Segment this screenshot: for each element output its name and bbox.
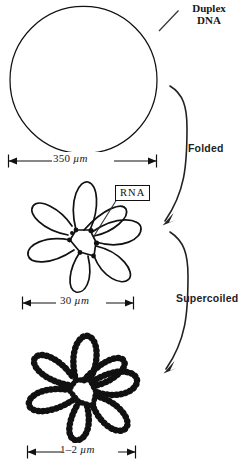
scale-value-30: 30 (60, 294, 71, 306)
duplex-dna-leader-line (159, 11, 179, 32)
scale-unit-30: µm (74, 294, 89, 306)
duplex-dna-circle (10, 7, 157, 154)
process-arrow-folded (140, 80, 240, 230)
scale-label-350um: 350 µm (53, 152, 88, 164)
scale-unit-350: µm (73, 152, 88, 164)
folded-arrow-path (165, 86, 187, 221)
duplex-dna-callout: Duplex DNA (180, 3, 238, 27)
rosette-core (70, 230, 96, 256)
rosette-loop (92, 220, 141, 245)
scale-label-1-2um: 1–2 µm (60, 443, 95, 455)
supercoil-texture (29, 336, 137, 440)
rna-callout-box: RNA (115, 185, 150, 201)
scale-label-30um: 30 µm (60, 294, 89, 306)
scale-unit-1-2: µm (80, 443, 95, 455)
rosette-loop (28, 239, 74, 262)
rosette-loop (70, 252, 90, 292)
scale-value-350: 350 (53, 152, 70, 164)
process-label-supercoiled: Supercoiled (176, 292, 238, 304)
rosette-loop (73, 182, 96, 230)
process-label-folded: Folded (188, 142, 224, 154)
rosette-loop (94, 246, 130, 282)
rosette-loop (32, 203, 72, 235)
duplex-dna-callout-line2: DNA (180, 15, 238, 27)
stage-supercoiled-rosette (18, 330, 148, 442)
scale-value-1-2: 1–2 (60, 443, 77, 455)
